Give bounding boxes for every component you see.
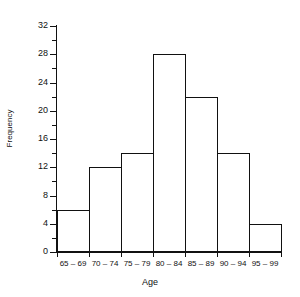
- y-tick-minor: [52, 238, 56, 239]
- y-tick-minor: [52, 97, 56, 98]
- x-tick: [57, 252, 58, 257]
- y-tick-minor: [52, 153, 56, 154]
- y-tick-minor: [52, 68, 56, 69]
- y-tick-label: 0: [4, 247, 48, 256]
- y-tick-minor: [52, 40, 56, 41]
- y-tick-major: [50, 111, 56, 112]
- y-tick-minor: [52, 125, 56, 126]
- y-tick-minor: [52, 210, 56, 211]
- x-tick: [89, 252, 90, 257]
- histogram-bar: [249, 224, 282, 252]
- y-tick-major: [50, 167, 56, 168]
- x-tick: [217, 252, 218, 257]
- y-tick-label: 8: [4, 191, 48, 200]
- histogram-bar: [121, 153, 154, 252]
- y-tick-label: 12: [4, 162, 48, 171]
- x-tick: [121, 252, 122, 257]
- y-tick-major: [50, 26, 56, 27]
- histogram-bar: [185, 97, 218, 252]
- y-tick-label: 32: [4, 21, 48, 30]
- histogram-figure: Residential Care 048121620242832 Frequen…: [0, 0, 300, 297]
- x-axis-tick-labels: 65 – 6970 – 7475 – 7980 – 8485 – 8990 – …: [0, 259, 300, 273]
- x-tick: [281, 252, 282, 257]
- y-axis-title: Frequency: [5, 99, 14, 159]
- y-tick-major: [50, 224, 56, 225]
- y-tick-major: [50, 252, 56, 253]
- y-tick-major: [50, 196, 56, 197]
- histogram-bar: [153, 54, 186, 252]
- y-tick-label: 24: [4, 78, 48, 87]
- chart-title: Residential Care: [60, 0, 126, 2]
- y-tick-major: [50, 54, 56, 55]
- x-tick: [153, 252, 154, 257]
- histogram-bar: [217, 153, 250, 252]
- y-tick-minor: [52, 181, 56, 182]
- x-axis-title: Age: [0, 277, 300, 287]
- y-tick-label: 28: [4, 49, 48, 58]
- plot-area: [57, 26, 281, 252]
- x-tick-label: 95 – 99: [245, 259, 285, 269]
- y-tick-major: [50, 139, 56, 140]
- histogram-bar: [57, 210, 90, 252]
- x-tick: [185, 252, 186, 257]
- histogram-bar: [89, 167, 122, 252]
- x-tick: [249, 252, 250, 257]
- y-tick-major: [50, 83, 56, 84]
- y-tick-label: 4: [4, 219, 48, 228]
